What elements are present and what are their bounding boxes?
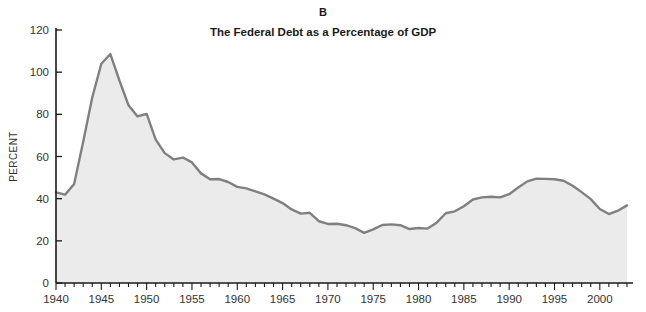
x-axis-ticks: 1940194519501955196019651970197519801985… bbox=[43, 283, 627, 305]
chart-figure: B The Federal Debt as a Percentage of GD… bbox=[0, 0, 646, 312]
y-tick-label: 80 bbox=[36, 108, 49, 120]
chart-plot-area: 020406080100120 194019451950195519601965… bbox=[0, 0, 646, 312]
y-axis-title: PERCENT bbox=[8, 131, 19, 182]
x-axis: 1940194519501955196019651970197519801985… bbox=[43, 283, 633, 305]
x-tick-label: 1960 bbox=[224, 293, 250, 305]
y-tick-label: 0 bbox=[43, 277, 49, 289]
x-tick-label: 2000 bbox=[587, 293, 613, 305]
x-tick-label: 1965 bbox=[270, 293, 296, 305]
x-tick-label: 1975 bbox=[360, 293, 386, 305]
y-tick-label: 60 bbox=[36, 151, 49, 163]
y-tick-label: 20 bbox=[36, 235, 49, 247]
x-tick-label: 1955 bbox=[179, 293, 205, 305]
x-tick-label: 1985 bbox=[451, 293, 477, 305]
x-tick-label: 1980 bbox=[406, 293, 432, 305]
svg-text:PERCENT: PERCENT bbox=[8, 131, 19, 182]
x-tick-label: 1950 bbox=[134, 293, 160, 305]
x-tick-label: 1970 bbox=[315, 293, 341, 305]
y-tick-label: 120 bbox=[30, 24, 49, 36]
x-tick-label: 1940 bbox=[43, 293, 69, 305]
y-tick-label: 100 bbox=[30, 66, 49, 78]
area-fill bbox=[56, 54, 627, 283]
x-tick-label: 1945 bbox=[89, 293, 115, 305]
x-tick-label: 1995 bbox=[542, 293, 568, 305]
y-tick-label: 40 bbox=[36, 193, 49, 205]
x-tick-label: 1990 bbox=[496, 293, 522, 305]
